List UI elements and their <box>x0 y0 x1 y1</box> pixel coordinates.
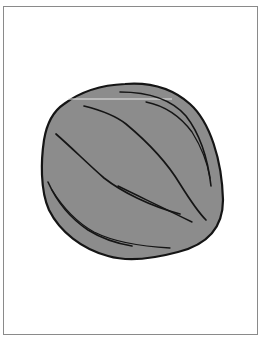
canvas: Stylized nut shell with curved ridge lin… <box>0 0 265 340</box>
nut-shell-icon <box>0 0 265 340</box>
nut-body <box>42 84 223 260</box>
